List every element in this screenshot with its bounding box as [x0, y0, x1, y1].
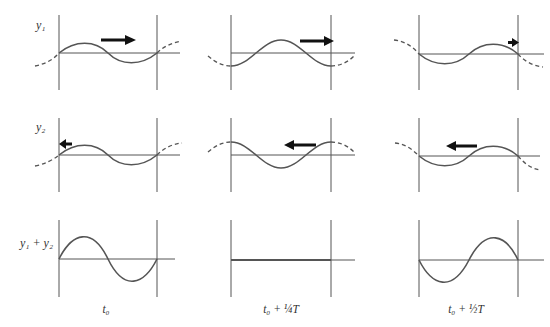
arrow-right-icon: [300, 36, 334, 46]
dashed-extensions: [35, 40, 543, 170]
row-label-sum: y₁ + y₂: [20, 236, 53, 251]
row-label-y2: y₂: [36, 120, 46, 135]
arrow-right-icon: [508, 38, 519, 47]
column-label-t0-half: t₀ + ½T: [448, 303, 484, 315]
wave-figure: [0, 0, 550, 327]
column-label-t0: t₀: [102, 303, 109, 315]
column-2-boundaries: [231, 15, 331, 297]
arrow-left-icon: [446, 141, 477, 151]
column-label-t0-quarter: t₀ + ¼T: [263, 303, 299, 315]
arrow-right-icon: [101, 35, 136, 45]
standing-wave-diagram: y₁ y₂ y₁ + y₂ t₀ t₀ + ¼T t₀ + ½T: [0, 0, 550, 327]
baselines: [59, 53, 544, 260]
arrow-left-icon: [284, 140, 316, 150]
row-label-y1: y₁: [36, 18, 46, 33]
direction-arrows: [59, 35, 519, 151]
